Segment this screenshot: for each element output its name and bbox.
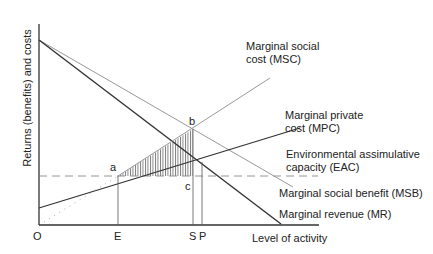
msc-dotted-line: [44, 176, 118, 222]
diagram: Returns (benefits) and costs O E S P Lev…: [0, 0, 433, 254]
point-b: b: [189, 115, 195, 127]
msc-label: Marginal socialcost (MSC): [246, 40, 319, 66]
tick-e: E: [114, 230, 121, 242]
tick-s: S: [189, 230, 196, 242]
msb-label: Marginal social benefit (MSB): [279, 187, 423, 200]
msc-line: [118, 78, 270, 176]
mr-label: Marginal revenue (MR): [279, 208, 391, 221]
y-axis-label: Returns (benefits) and costs: [21, 29, 33, 167]
origin-label: O: [33, 230, 42, 242]
point-a: a: [110, 161, 116, 173]
point-c: c: [185, 180, 191, 192]
x-axis-label: Level of activity: [252, 232, 327, 245]
tick-p: P: [199, 230, 206, 242]
mpc-label: Marginal privatecost (MPC): [285, 109, 363, 135]
eac-label: Environmental assimulativecapacity (EAC): [286, 148, 420, 174]
